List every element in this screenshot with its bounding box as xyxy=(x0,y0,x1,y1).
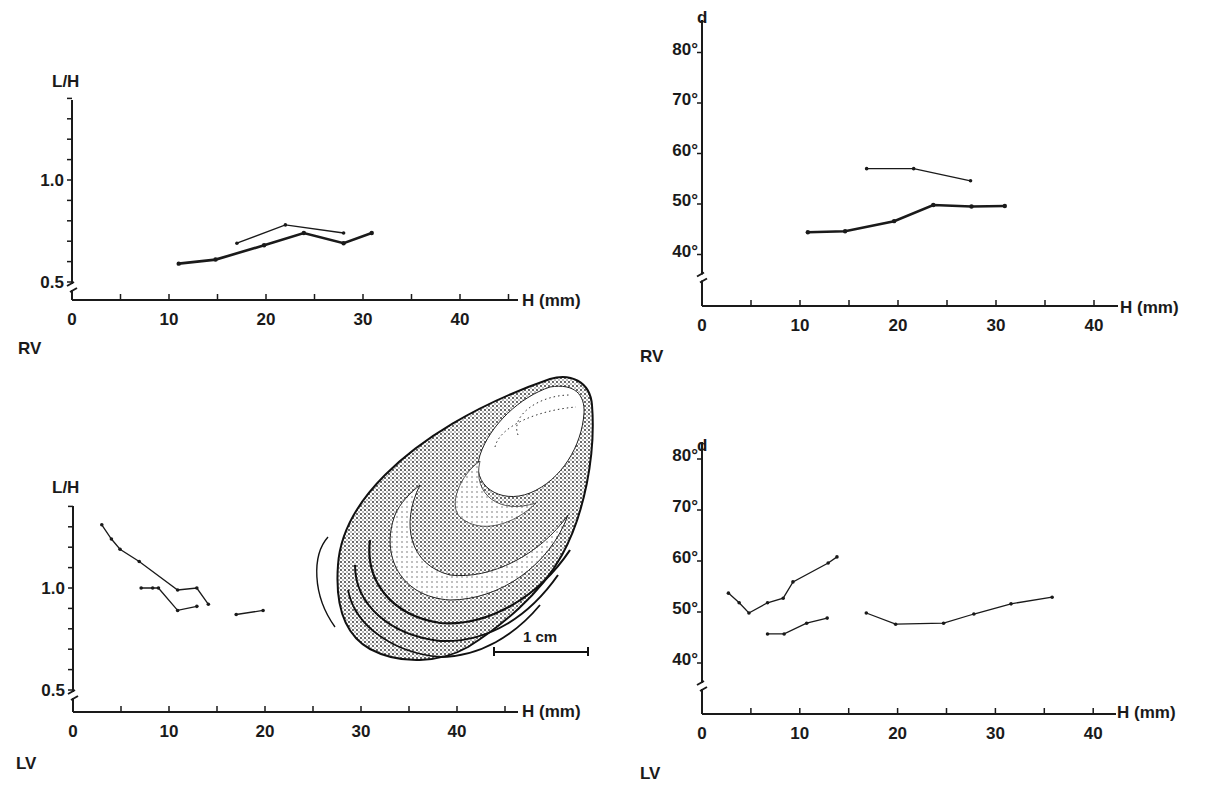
data-point xyxy=(912,167,916,171)
scale-bar-end-left xyxy=(493,647,495,656)
data-point xyxy=(781,596,785,600)
data-point xyxy=(302,231,306,235)
data-point xyxy=(235,241,239,245)
data-point xyxy=(791,580,795,584)
data-series-series-a xyxy=(727,555,839,615)
data-point xyxy=(195,586,199,590)
data-series-series-c xyxy=(234,609,264,617)
data-point xyxy=(342,231,346,235)
data-point xyxy=(151,586,155,590)
y-axis-label: d xyxy=(697,8,707,28)
x-tick-label: 10 xyxy=(160,310,179,329)
x-axis: 010203040 xyxy=(67,294,518,329)
x-tick-label: 40 xyxy=(451,310,470,329)
data-point xyxy=(805,621,809,625)
data-point xyxy=(826,561,830,565)
data-series-series-b xyxy=(139,586,198,612)
data-point xyxy=(176,609,180,613)
panel-top-left: 0.51.0010203040 L/H H (mm) RV xyxy=(0,0,620,380)
x-tick-label: 40 xyxy=(448,722,467,741)
y-tick-label: 70° xyxy=(672,90,698,109)
valve-label: RV xyxy=(640,347,663,367)
y-tick-label: 80° xyxy=(672,40,698,59)
y-tick-label: 50° xyxy=(672,599,698,618)
data-series-series-thick xyxy=(806,203,1007,235)
x-tick-label: 30 xyxy=(986,724,1005,743)
data-point xyxy=(118,547,122,551)
y-axis: 0.51.0 xyxy=(40,98,77,300)
y-tick-label: 0.5 xyxy=(41,681,65,700)
x-tick-label: 40 xyxy=(1084,724,1103,743)
data-point xyxy=(972,612,976,616)
data-point xyxy=(1009,602,1013,606)
y-axis: 40°50°60°70°80° xyxy=(672,20,707,306)
x-tick-label: 20 xyxy=(256,722,275,741)
data-point xyxy=(1003,204,1007,208)
data-point xyxy=(766,632,770,636)
x-tick-label: 0 xyxy=(68,722,77,741)
panel-bottom-right: 40°50°60°70°80°010203040 d H (mm) LV xyxy=(620,380,1225,803)
y-tick-label: 60° xyxy=(672,141,698,160)
x-tick-label: 20 xyxy=(257,310,276,329)
data-point xyxy=(727,591,731,595)
data-point xyxy=(843,229,847,233)
valve-label: RV xyxy=(18,339,41,359)
data-series-series-c xyxy=(865,595,1054,626)
x-tick-label: 40 xyxy=(1085,316,1104,335)
y-axis-label: L/H xyxy=(52,478,79,498)
data-point xyxy=(177,261,181,265)
data-point xyxy=(747,611,751,615)
scale-bar-label: 1 cm xyxy=(523,628,557,645)
data-series-series-thin xyxy=(235,223,345,245)
data-series-series-b xyxy=(766,616,829,635)
panel-top-right: 40°50°60°70°80°010203040 d H (mm) RV xyxy=(620,0,1225,380)
x-tick-label: 20 xyxy=(889,316,908,335)
y-axis: 40°50°60°70°80° xyxy=(672,442,707,714)
data-point xyxy=(865,611,869,615)
x-tick-label: 30 xyxy=(987,316,1006,335)
data-point xyxy=(213,257,217,261)
chart-bottom-right: 40°50°60°70°80°010203040 xyxy=(620,380,1225,803)
data-point xyxy=(261,609,265,613)
x-tick-label: 10 xyxy=(160,722,179,741)
x-tick-label: 0 xyxy=(697,316,706,335)
data-point xyxy=(157,586,161,590)
data-point xyxy=(100,523,104,527)
data-point xyxy=(969,179,973,183)
data-series-series-thick xyxy=(177,231,374,266)
data-point xyxy=(865,167,869,171)
y-tick-label: 1.0 xyxy=(41,579,65,598)
scale-bar: 1 cm xyxy=(493,628,593,658)
data-point xyxy=(137,560,141,564)
y-tick-label: 40° xyxy=(672,650,698,669)
data-point xyxy=(370,231,374,235)
valve-label: LV xyxy=(640,764,660,784)
data-point xyxy=(737,601,741,605)
y-tick-label: 80° xyxy=(672,446,698,465)
x-axis: 010203040 xyxy=(68,706,518,741)
chart-top-left: 0.51.0010203040 xyxy=(0,0,620,380)
valve-label: LV xyxy=(16,754,36,774)
y-tick-label: 40° xyxy=(672,242,698,261)
data-point xyxy=(931,203,935,207)
x-axis-label: H (mm) xyxy=(522,702,581,722)
x-tick-label: 0 xyxy=(697,724,706,743)
data-point xyxy=(942,621,946,625)
data-point xyxy=(110,537,114,541)
x-tick-label: 30 xyxy=(352,722,371,741)
x-tick-label: 10 xyxy=(790,724,809,743)
y-axis-label: d xyxy=(697,436,707,456)
chart-top-right: 40°50°60°70°80°010203040 xyxy=(620,0,1225,380)
data-series-series-thin xyxy=(865,167,972,183)
y-tick-label: 1.0 xyxy=(40,171,64,190)
data-point xyxy=(766,601,770,605)
x-tick-label: 20 xyxy=(888,724,907,743)
x-tick-label: 30 xyxy=(354,310,373,329)
scale-bar-line xyxy=(493,651,589,653)
data-point xyxy=(1050,595,1054,599)
y-tick-label: 60° xyxy=(672,548,698,567)
scale-bar-end-right xyxy=(587,647,589,656)
y-axis: 0.51.0 xyxy=(41,506,78,712)
y-tick-label: 0.5 xyxy=(40,273,64,292)
data-point xyxy=(806,230,810,234)
